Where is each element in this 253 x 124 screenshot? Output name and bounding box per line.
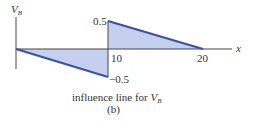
influence-line-diagram: VB 0.5 −0.5 10 20 x influence line for V…: [0, 0, 253, 124]
y-axis-label: VB: [11, 4, 22, 19]
x-axis-label: x: [236, 43, 241, 54]
caption-label: (b): [107, 104, 120, 115]
tick-label-10: 10: [111, 53, 122, 64]
tick-label-neg: −0.5: [109, 74, 129, 85]
tick-label-20: 20: [197, 53, 208, 64]
tick-label-pos: 0.5: [93, 16, 107, 27]
